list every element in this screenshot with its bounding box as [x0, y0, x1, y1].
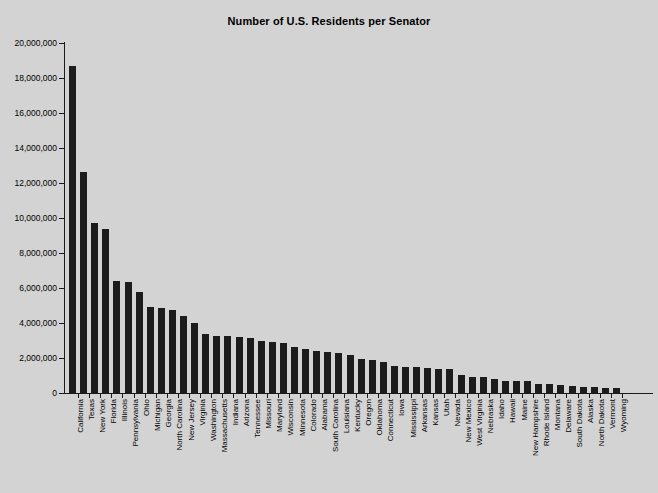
- x-axis-tick-label: Kansas: [431, 399, 440, 426]
- x-axis-tick-label: North Carolina: [175, 399, 184, 451]
- x-axis-tick-label: West Virginia: [475, 399, 484, 446]
- x-axis-tick-label: Idaho: [497, 399, 506, 419]
- x-axis-tick-label: Nebraska: [486, 399, 495, 433]
- x-axis-tick-label: New Hampshire: [531, 399, 540, 456]
- x-axis-tick-label: Connecticut: [386, 399, 395, 441]
- x-axis-tick-label: Michigan: [153, 399, 162, 431]
- x-axis-tick-label: Missouri: [264, 399, 273, 429]
- x-axis-tick-label: Maine: [520, 399, 529, 421]
- x-axis-tick-label: Georgia: [164, 399, 173, 427]
- x-axis-tick-label: Tennessee: [253, 399, 262, 438]
- x-axis-tick-label: Kentucky: [353, 399, 362, 432]
- x-axis-tick-label: New Jersey: [187, 399, 196, 441]
- x-axis-tick-label: Maryland: [275, 399, 284, 432]
- x-axis-tick-label: New York: [98, 399, 107, 433]
- x-axis-tick-label: Rhode Island: [542, 399, 551, 446]
- x-axis-tick-label: Wisconsin: [286, 399, 295, 435]
- x-axis-tick-label: Hawaii: [508, 399, 517, 423]
- x-axis-tick-label: Florida: [109, 399, 118, 423]
- x-axis-tick-label: Iowa: [397, 399, 406, 416]
- x-axis-tick-label: Colorado: [309, 399, 318, 431]
- x-axis-tick-label: Texas: [87, 399, 96, 420]
- x-axis-tick-label: Nevada: [453, 399, 462, 427]
- x-axis-tick-label: New Mexico: [464, 399, 473, 443]
- x-axis-tick-label: Illinois: [120, 399, 129, 421]
- x-axis-tick-label: South Dakota: [575, 399, 584, 447]
- x-axis-tick-label: Oklahoma: [375, 399, 384, 435]
- x-axis-tick-label: Vermont: [608, 399, 617, 429]
- x-axis-tick-label: Montana: [553, 399, 562, 430]
- x-axis-tick-label: Arizona: [242, 399, 251, 426]
- x-axis-tick-label: Wyoming: [619, 399, 628, 432]
- x-axis-tick-label: California: [76, 399, 85, 433]
- x-axis-tick-label: Louisiana: [342, 399, 351, 433]
- x-axis-tick-label: Washington: [209, 399, 218, 441]
- chart-container: Number of U.S. Residents per Senator 20,…: [0, 0, 658, 493]
- x-axis-tick-label: Minnesota: [298, 399, 307, 436]
- x-axis-tick-label: Virginia: [198, 399, 207, 426]
- x-axis-tick-label: South Carolina: [331, 399, 340, 452]
- x-axis-tick-label: North Dakota: [597, 399, 606, 446]
- x-axis-tick-label: Alaska: [586, 399, 595, 423]
- x-axis-tick-label: Mississippi: [409, 399, 418, 438]
- x-axis-tick-label: Massachusetts: [220, 399, 229, 452]
- x-axis-tick-label: Oregon: [364, 399, 373, 426]
- x-axis-tick-label: Arkansas: [420, 399, 429, 432]
- x-axis-labels: CaliforniaTexasNew YorkFloridaIllinoisPe…: [0, 0, 658, 493]
- x-axis-tick-label: Pennsylvania: [131, 399, 140, 447]
- x-axis-tick-label: Ohio: [142, 399, 151, 416]
- x-axis-tick-label: Utah: [442, 399, 451, 416]
- x-axis-tick-label: Alabama: [320, 399, 329, 431]
- x-axis-tick-label: Delaware: [564, 399, 573, 433]
- x-axis-tick-label: Indiana: [231, 399, 240, 425]
